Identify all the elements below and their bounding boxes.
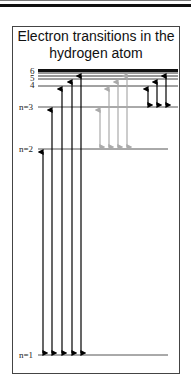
energy-level-diagram: 6 5 4 n=3 n=2 n=1 [0,0,191,389]
energy-levels [38,69,178,355]
level-limit-band [38,69,178,72]
paschen-arrows [148,76,166,105]
lyman-arrows [43,76,81,353]
label-n3: n=3 [19,102,34,112]
label-n4: 4 [30,80,35,90]
balmer-arrows [100,76,127,147]
level-labels: 6 5 4 n=3 n=2 n=1 [19,66,35,360]
label-n1: n=1 [19,350,33,360]
label-n2: n=2 [19,144,33,154]
